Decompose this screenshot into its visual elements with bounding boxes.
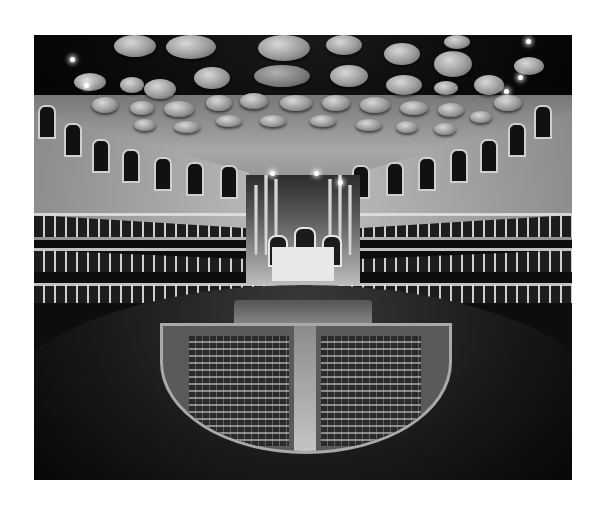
organ-console — [272, 247, 334, 281]
center-aisle — [294, 326, 316, 451]
arena-floor — [160, 323, 452, 454]
concert-hall-photo — [34, 35, 572, 480]
